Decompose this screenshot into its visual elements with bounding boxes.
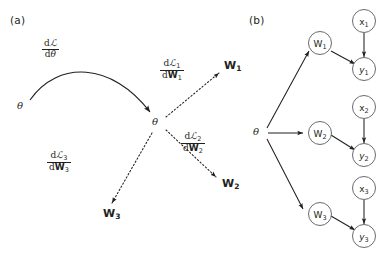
- panel-a-target-W3: W3: [103, 207, 120, 221]
- panel-a-center-theta: θ: [152, 116, 158, 127]
- edge-theta-to-W1: [267, 51, 309, 128]
- panel-a-target-W2-base: W: [222, 177, 234, 190]
- panel-b-theta: θ: [253, 126, 259, 137]
- arrow-main-gradient: [30, 72, 150, 112]
- arrow-branch-3: [112, 133, 152, 203]
- label-branch-1: dℒ1 dW1: [160, 58, 184, 81]
- panel-a-target-W1-sub: 1: [236, 64, 241, 73]
- panel-a-source-theta: θ: [17, 100, 23, 111]
- panel-a-target-W1-base: W: [224, 59, 236, 72]
- panel-a-label: (a): [10, 14, 25, 26]
- figure-canvas: W1 x1 y1 W2 x2 y2 W3 x3 y3 (a) θ θ dℒ dθ…: [0, 0, 392, 267]
- panel-a-target-W1: W1: [224, 59, 241, 73]
- edge-W3-to-y3: [331, 216, 355, 230]
- panel-a-target-W2-sub: 2: [234, 182, 239, 191]
- panel-a-target-W3-sub: 3: [115, 212, 120, 221]
- panel-b-label: (b): [249, 14, 264, 26]
- label-branch-2: dℒ2 dW2: [181, 131, 205, 154]
- edge-theta-to-W3: [267, 139, 303, 209]
- panel-a-target-W2: W2: [222, 177, 239, 191]
- edge-W1-to-y1: [331, 51, 355, 64]
- panel-a-target-W3-base: W: [103, 207, 115, 220]
- label-branch-3: dℒ3 dW3: [47, 150, 71, 173]
- edge-W2-to-y2: [331, 135, 355, 150]
- label-main-gradient: dℒ dθ: [42, 38, 59, 60]
